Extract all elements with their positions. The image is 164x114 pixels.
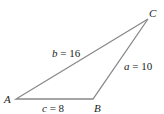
- triangle-abc: [16, 19, 148, 99]
- side-label-a: a = 10: [124, 60, 153, 72]
- vertex-label-c: C: [149, 7, 157, 19]
- vertex-label-b: B: [94, 102, 101, 114]
- triangle-diagram: A B C b = 16 a = 10 c = 8: [0, 0, 164, 114]
- side-label-b: b = 16: [52, 47, 81, 59]
- side-label-c: c = 8: [42, 102, 65, 114]
- vertex-label-a: A: [3, 93, 11, 105]
